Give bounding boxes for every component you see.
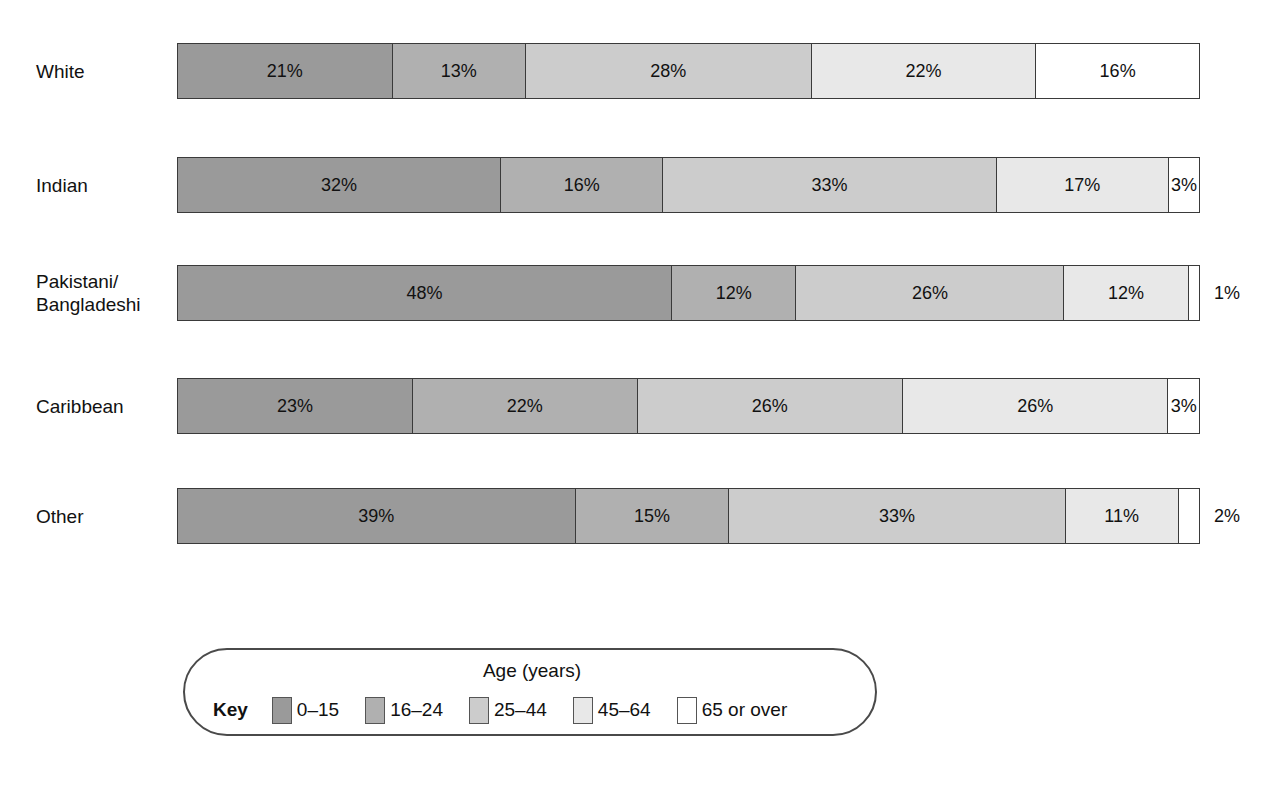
segment-value-label: 33% <box>879 506 915 527</box>
bar-segment[interactable]: 16% <box>501 158 663 212</box>
segment-value-label: 11% <box>1104 506 1139 527</box>
row-category-label: Other <box>36 505 176 528</box>
segment-value-label: 12% <box>1108 283 1144 304</box>
bar-segment[interactable]: 33% <box>729 489 1066 543</box>
row-category-label: Pakistani/ Bangladeshi <box>36 270 176 316</box>
bar-segment[interactable]: 12% <box>1064 266 1188 320</box>
bar-track: 23%22%26%26%3% <box>177 378 1200 434</box>
segment-value-label: 28% <box>650 61 686 82</box>
segment-value-label: 22% <box>905 61 941 82</box>
bar-segment[interactable]: 21% <box>178 44 393 98</box>
segment-value-label: 15% <box>634 506 670 527</box>
bar-segment[interactable]: 26% <box>638 379 903 433</box>
legend-key-label: Key <box>213 699 248 721</box>
segment-value-label: 23% <box>277 396 313 417</box>
bar-track: 21%13%28%22%16% <box>177 43 1200 99</box>
legend-swatch-icon <box>469 697 489 724</box>
legend-swatch-icon <box>365 697 385 724</box>
segment-value-label: 13% <box>441 61 477 82</box>
bar-segment[interactable]: 12% <box>672 266 796 320</box>
segment-value-label: 12% <box>716 283 752 304</box>
bar-segment[interactable]: 3% <box>1168 379 1199 433</box>
segment-value-label: 33% <box>811 175 847 196</box>
segment-outside-value-label: 1% <box>1214 283 1240 304</box>
segment-value-label: 26% <box>752 396 788 417</box>
bar-row: Indian32%16%33%17%3% <box>0 157 1281 213</box>
segment-value-label: 3% <box>1171 396 1197 417</box>
bar-segment[interactable]: 17% <box>997 158 1169 212</box>
bar-segment[interactable]: 26% <box>903 379 1168 433</box>
bar-segment[interactable] <box>1179 489 1199 543</box>
bar-track: 48%12%26%12% <box>177 265 1200 321</box>
legend-item-label: 65 or over <box>702 699 788 721</box>
segment-value-label: 48% <box>407 283 443 304</box>
bar-row: Pakistani/ Bangladeshi48%12%26%12%1% <box>0 265 1281 321</box>
bar-segment[interactable] <box>1189 266 1199 320</box>
bar-row: Caribbean23%22%26%26%3% <box>0 378 1281 434</box>
bar-segment[interactable]: 13% <box>393 44 526 98</box>
segment-value-label: 17% <box>1064 175 1100 196</box>
legend-item-label: 16–24 <box>390 699 443 721</box>
segment-value-label: 16% <box>1100 61 1136 82</box>
legend-items: Key 0–1516–2425–4445–6465 or over <box>185 693 879 727</box>
segment-value-label: 3% <box>1171 175 1197 196</box>
bar-segment[interactable]: 15% <box>576 489 730 543</box>
legend-item[interactable]: 45–64 <box>573 697 651 724</box>
row-category-label: White <box>36 60 176 83</box>
segment-value-label: 39% <box>358 506 394 527</box>
bar-row: White21%13%28%22%16% <box>0 43 1281 99</box>
row-category-label: Indian <box>36 174 176 197</box>
legend-item[interactable]: 0–15 <box>272 697 339 724</box>
legend-swatch-icon <box>573 697 593 724</box>
bar-track: 32%16%33%17%3% <box>177 157 1200 213</box>
bar-segment[interactable]: 3% <box>1169 158 1199 212</box>
legend-item[interactable]: 25–44 <box>469 697 547 724</box>
bar-segment[interactable]: 11% <box>1066 489 1179 543</box>
segment-value-label: 16% <box>564 175 600 196</box>
bar-segment[interactable]: 48% <box>178 266 672 320</box>
segment-value-label: 22% <box>507 396 543 417</box>
bar-segment[interactable]: 26% <box>796 266 1064 320</box>
bar-segment[interactable]: 28% <box>526 44 812 98</box>
chart-legend: Age (years) Key 0–1516–2425–4445–6465 or… <box>183 648 877 736</box>
segment-value-label: 32% <box>321 175 357 196</box>
bar-row: Other39%15%33%11%2% <box>0 488 1281 544</box>
bar-segment[interactable]: 16% <box>1036 44 1199 98</box>
bar-segment[interactable]: 23% <box>178 379 413 433</box>
segment-value-label: 21% <box>267 61 303 82</box>
legend-item[interactable]: 65 or over <box>677 697 788 724</box>
legend-title: Age (years) <box>185 660 879 682</box>
legend-swatch-icon <box>272 697 292 724</box>
legend-item-label: 25–44 <box>494 699 547 721</box>
row-category-label: Caribbean <box>36 395 176 418</box>
bar-segment[interactable]: 22% <box>413 379 638 433</box>
stacked-bar-chart: White21%13%28%22%16%Indian32%16%33%17%3%… <box>0 0 1281 788</box>
bar-segment[interactable]: 32% <box>178 158 501 212</box>
legend-item[interactable]: 16–24 <box>365 697 443 724</box>
segment-value-label: 26% <box>1017 396 1053 417</box>
segment-value-label: 26% <box>912 283 948 304</box>
bar-segment[interactable]: 39% <box>178 489 576 543</box>
legend-item-label: 45–64 <box>598 699 651 721</box>
legend-swatch-icon <box>677 697 697 724</box>
bar-segment[interactable]: 22% <box>812 44 1037 98</box>
bar-segment[interactable]: 33% <box>663 158 996 212</box>
bar-track: 39%15%33%11% <box>177 488 1200 544</box>
segment-outside-value-label: 2% <box>1214 506 1240 527</box>
legend-item-label: 0–15 <box>297 699 339 721</box>
